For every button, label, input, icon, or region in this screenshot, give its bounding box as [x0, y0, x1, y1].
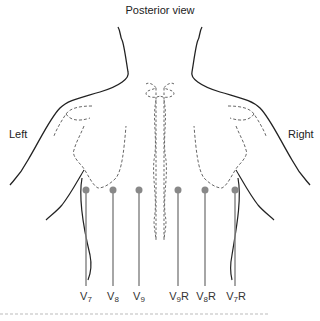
lead-label-v8r: V8R: [196, 290, 216, 304]
lead-v8r: [202, 187, 209, 287]
lead-v9r: [175, 187, 182, 287]
posterior-torso-diagram: [0, 0, 320, 321]
right-body-outline: [192, 27, 310, 185]
lead-v7: [83, 187, 90, 287]
lead-v9: [136, 187, 143, 287]
left-scapula-dashed: [54, 106, 126, 188]
right-scapula-dashed: [194, 106, 266, 188]
lead-v7r: [232, 187, 239, 287]
left-lateral-torso: [46, 170, 84, 220]
lead-label-v7r: V7R: [226, 290, 246, 304]
right-lateral-torso: [236, 170, 274, 220]
left-body-outline: [10, 27, 128, 185]
spine-dashed: [146, 83, 174, 240]
lead-label-v8: V8: [107, 290, 119, 304]
lead-label-v9: V9: [133, 290, 145, 304]
lead-label-v7: V7: [80, 290, 92, 304]
lead-label-v9r: V9R: [169, 290, 189, 304]
lead-electrodes: [83, 187, 239, 287]
lead-v8: [110, 187, 117, 287]
